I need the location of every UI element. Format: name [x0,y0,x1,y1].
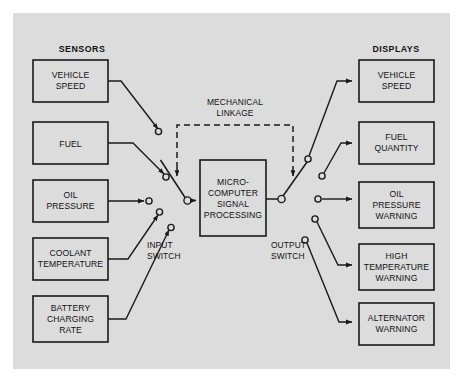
output-switch-contact-1[interactable] [305,156,311,162]
sensor-group: VEHICLE SPEED FUEL OIL PRESSURE COOLANT … [33,60,108,342]
display-fuel-line1: FUEL [385,132,407,142]
display-box-fuel-quantity[interactable]: FUEL QUANTITY [359,122,434,164]
display-vehicle-speed-line1: VEHICLE [378,70,416,80]
display-hightemp-line2: TEMPERATURE [364,262,430,272]
sensor-box-vehicle-speed[interactable]: VEHICLE SPEED [33,60,108,102]
sensor-battery-line2: CHARGING [47,314,94,324]
sensor-box-battery-charging-rate[interactable]: BATTERY CHARGING RATE [33,296,108,342]
input-switch-contact-5[interactable] [168,224,174,230]
processor-line1: MICRO- [217,177,249,187]
display-box-alternator-warning[interactable]: ALTERNATOR WARNING [359,303,434,345]
processor-line3: SIGNAL [217,199,249,209]
display-box-oil-pressure-warning[interactable]: OIL PRESSURE WARNING [359,182,434,228]
display-box-vehicle-speed[interactable]: VEHICLE SPEED [359,60,434,102]
sensors-heading: SENSORS [59,44,106,54]
display-alternator-line2: WARNING [376,324,418,334]
input-switch-contact-3[interactable] [146,198,152,204]
display-oil-line3: WARNING [376,211,418,221]
display-vehicle-speed-line2: SPEED [382,81,412,91]
display-box-high-temperature-warning[interactable]: HIGH TEMPERATURE WARNING [359,244,434,290]
input-switch-contact-1[interactable] [155,128,161,134]
mechanical-linkage-label-line2: LINKAGE [216,108,253,118]
input-switch-contact-2[interactable] [163,174,169,180]
sensor-battery-line1: BATTERY [51,303,91,313]
output-switch-contact-3[interactable] [315,196,321,202]
output-switch-contact-2[interactable] [319,173,325,179]
display-hightemp-line1: HIGH [386,251,408,261]
display-alternator-line1: ALTERNATOR [368,313,425,323]
output-switch-label-line1: OUTPUT [271,240,306,250]
processor-line2: COMPUTER [208,188,258,198]
output-switch-contact-4[interactable] [312,216,318,222]
display-group: VEHICLE SPEED FUEL QUANTITY OIL PRESSURE… [359,60,434,345]
sensor-box-oil-pressure[interactable]: OIL PRESSURE [33,180,108,222]
input-switch-label-line2: SWITCH [147,251,181,261]
output-switch-label-line2: SWITCH [271,251,305,261]
display-oil-line1: OIL [389,189,403,199]
display-fuel-line2: QUANTITY [374,143,418,153]
sensor-box-fuel[interactable]: FUEL [33,122,108,164]
sensor-fuel-line1: FUEL [59,139,81,149]
display-hightemp-line3: WARNING [376,273,418,283]
diagram-canvas: SENSORS DISPLAYS VEHICLE SPEED FUEL OIL … [0,0,464,384]
sensor-vehicle-speed-line1: VEHICLE [52,70,90,80]
microcomputer-processor-box[interactable]: MICRO- COMPUTER SIGNAL PROCESSING [200,160,266,236]
sensor-box-coolant-temperature[interactable]: COOLANT TEMPERATURE [33,238,108,280]
sensor-oil-pressure-line2: PRESSURE [46,201,94,211]
sensor-oil-pressure-line1: OIL [63,190,77,200]
input-switch-contact-4[interactable] [156,209,162,215]
processor-line4: PROCESSING [204,210,263,220]
mechanical-linkage-label-line1: MECHANICAL [207,97,263,107]
sensor-coolant-line2: TEMPERATURE [38,259,104,269]
display-oil-line2: PRESSURE [372,200,420,210]
sensor-vehicle-speed-line2: SPEED [56,81,86,91]
sensor-battery-line3: RATE [59,325,82,335]
output-switch-common-pole[interactable] [278,195,285,202]
input-switch-label-line1: INPUT [147,240,173,250]
sensor-coolant-line1: COOLANT [49,248,92,258]
displays-heading: DISPLAYS [372,44,419,54]
input-switch-common-pole[interactable] [184,197,191,204]
instrumentation-diagram: SENSORS DISPLAYS VEHICLE SPEED FUEL OIL … [0,0,464,384]
